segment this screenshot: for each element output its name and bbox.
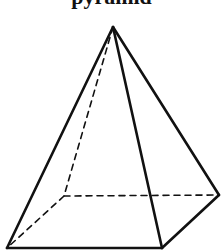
hidden-edge-backleft-backright <box>64 195 219 196</box>
edge-apex-backright <box>113 27 219 195</box>
edge-apex-frontleft <box>7 27 113 248</box>
pyramid-diagram <box>0 0 223 251</box>
edge-frontright-backright <box>162 195 219 248</box>
edge-apex-frontright <box>113 27 162 248</box>
hidden-edge-backleft-frontleft <box>7 196 64 248</box>
